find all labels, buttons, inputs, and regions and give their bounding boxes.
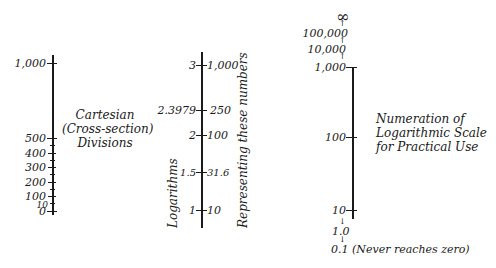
- up-arrow-icon: ↑: [339, 53, 346, 61]
- tick-log-1: [196, 210, 207, 211]
- caption-line: for Practical Use: [376, 140, 486, 154]
- minor-tick: [50, 145, 55, 146]
- tick-200: [48, 182, 56, 183]
- label-300: 300: [25, 162, 46, 173]
- label-200: 200: [25, 177, 46, 188]
- number-value: 250: [210, 105, 231, 116]
- tick-0: [47, 211, 57, 212]
- log-value: 2.3979: [158, 105, 197, 116]
- caption-line: (Cross-section): [62, 122, 148, 136]
- caption-line: Numeration of: [376, 112, 486, 126]
- label-400: 400: [25, 148, 46, 159]
- minor-tick: [50, 203, 55, 204]
- log-value: 1.5: [180, 167, 196, 178]
- caption-line: Cartesian: [62, 108, 148, 122]
- number-value: 31.6: [207, 167, 229, 178]
- label-0: 0: [39, 206, 46, 217]
- label-1000: 1,000: [315, 62, 347, 73]
- number-value: 100: [207, 130, 228, 141]
- cartesian-axis-line: [52, 55, 54, 215]
- tick-100: [346, 137, 357, 138]
- minor-tick: [50, 189, 55, 190]
- label-0.1: 0.1: [331, 244, 349, 255]
- logarithms-caption: Logarithms: [166, 158, 180, 228]
- tick-log-2.3979: [196, 110, 207, 111]
- tick-300: [48, 167, 56, 168]
- cartesian-caption: Cartesian (Cross-section) Divisions: [62, 108, 148, 150]
- label-1000: 1,000: [15, 58, 47, 69]
- log-value: 3: [189, 60, 196, 71]
- representing-caption: Representing these numbers: [236, 52, 250, 228]
- caption-line: Divisions: [62, 136, 148, 150]
- log-value: 1: [189, 205, 196, 216]
- tick-log-2: [196, 135, 207, 136]
- tick-1000: [346, 67, 357, 68]
- label-10: 10: [332, 205, 346, 216]
- log-axis-line: [201, 52, 203, 228]
- caption-line: Logarithmic Scale: [376, 126, 486, 140]
- label-100: 100: [325, 132, 346, 143]
- tick-1000: [47, 63, 57, 64]
- tick-log-1.5: [196, 172, 207, 173]
- log-value: 2: [189, 130, 196, 141]
- minor-tick: [50, 160, 55, 161]
- label-500: 500: [25, 133, 46, 144]
- tick-400: [48, 153, 56, 154]
- tick-10: [346, 210, 357, 211]
- practical-axis-line: [352, 67, 354, 219]
- tick-log-3: [196, 65, 207, 66]
- number-value: 10: [207, 205, 221, 216]
- tick-100: [48, 196, 56, 197]
- practical-caption: Numeration of Logarithmic Scale for Prac…: [376, 112, 486, 154]
- number-value: 1,000: [207, 60, 239, 71]
- never-reaches-zero-note: (Never reaches zero): [352, 244, 470, 255]
- tick-500: [47, 138, 57, 139]
- minor-tick: [50, 174, 55, 175]
